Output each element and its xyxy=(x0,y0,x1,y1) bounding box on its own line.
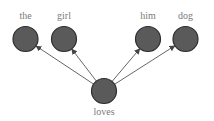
node-circle xyxy=(52,27,77,52)
node-dog: dog xyxy=(173,10,198,52)
node-girl: girl xyxy=(52,10,77,52)
node-label: girl xyxy=(57,10,71,21)
node-circle xyxy=(92,79,117,104)
node-circle xyxy=(173,27,198,52)
node-circle xyxy=(136,27,161,52)
node-label: the xyxy=(19,10,32,21)
edge-loves-to-girl xyxy=(72,49,97,81)
node-label: dog xyxy=(178,10,193,21)
dependency-diagram: thegirlhimdogloves xyxy=(0,0,214,121)
node-label: loves xyxy=(93,106,114,117)
node-loves: loves xyxy=(92,79,117,118)
nodes-group: thegirlhimdogloves xyxy=(13,10,198,117)
edge-loves-to-dog xyxy=(114,46,175,85)
node-label: him xyxy=(140,10,156,21)
node-the: the xyxy=(13,10,38,52)
node-circle xyxy=(13,27,38,52)
node-him: him xyxy=(136,10,161,52)
